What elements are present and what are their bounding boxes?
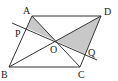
geometry-diagram: A D P O Q B C <box>0 0 118 81</box>
label-b: B <box>1 69 8 80</box>
label-o: O <box>50 44 57 55</box>
label-c: C <box>78 69 85 80</box>
label-a: A <box>23 5 31 16</box>
label-d: D <box>104 6 111 17</box>
label-q: Q <box>88 47 96 58</box>
label-p: P <box>15 28 21 39</box>
